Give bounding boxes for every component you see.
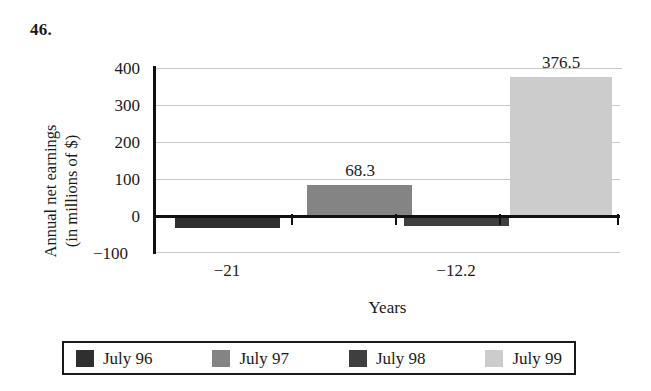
- legend-label-july-96: July 96: [103, 350, 153, 367]
- x-tick-4: [617, 214, 619, 225]
- legend-item-july-98: July 98: [349, 350, 426, 367]
- gridline-neg100: [155, 252, 620, 253]
- legend-swatch-icon-july-99: [485, 350, 503, 367]
- y-axis-spine: [153, 66, 156, 254]
- legend-label-july-98: July 98: [376, 350, 426, 367]
- problem-number: 46.: [30, 20, 52, 40]
- y-tick-label-neg100: −100: [66, 245, 128, 262]
- legend-swatch-icon-july-96: [76, 350, 94, 367]
- x-tick-1: [291, 214, 293, 225]
- x-tick-3: [499, 214, 501, 225]
- bar-july-99: [510, 77, 612, 216]
- y-tick-label-300: 300: [78, 97, 140, 114]
- y-tick-label-0: 0: [78, 208, 140, 225]
- bar-july-97: [307, 185, 412, 216]
- y-tick-label-100: 100: [78, 171, 140, 188]
- y-tick-label-200: 200: [78, 134, 140, 151]
- value-label-july-97: 68.3: [305, 162, 415, 180]
- legend-item-july-96: July 96: [76, 350, 153, 367]
- zero-baseline: [153, 215, 620, 218]
- legend-item-july-99: July 99: [485, 350, 562, 367]
- bar-july-98: [404, 218, 509, 226]
- bar-july-96: [175, 218, 280, 228]
- value-label-july-96: −21: [172, 262, 282, 280]
- legend-swatch-icon-july-98: [349, 350, 367, 367]
- legend-swatch-icon-july-97: [212, 350, 230, 367]
- bar-chart-figure: 46. Annual net earnings (in millions of …: [0, 0, 651, 391]
- chart-legend: July 96 July 97 July 98 July 99: [62, 341, 576, 375]
- x-axis-title: Years: [155, 298, 620, 318]
- legend-label-july-99: July 99: [512, 350, 562, 367]
- value-label-july-99: 376.5: [506, 54, 616, 72]
- legend-label-july-97: July 97: [239, 350, 289, 367]
- x-tick-2: [395, 214, 397, 225]
- legend-item-july-97: July 97: [212, 350, 289, 367]
- y-tick-label-400: 400: [78, 60, 140, 77]
- y-axis-title-line-1: Annual net earnings: [40, 76, 61, 306]
- value-label-july-98: −12.2: [401, 262, 511, 280]
